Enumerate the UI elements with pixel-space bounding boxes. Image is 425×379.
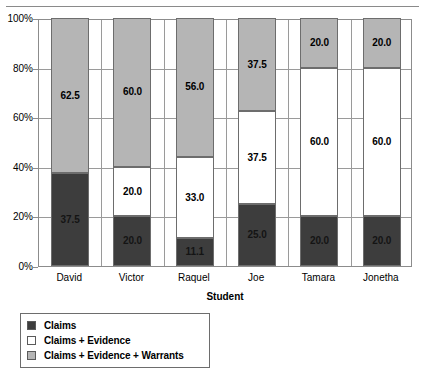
legend-item-label: Claims + Evidence [44, 335, 130, 346]
bar-column: 25.037.537.5 [226, 20, 288, 266]
legend-item[interactable]: Claims + Evidence [27, 333, 204, 348]
x-axis-tick-label: Joe [225, 272, 287, 283]
bar-segment[interactable]: 11.1 [176, 238, 214, 266]
y-axis-tick-label: 80% [0, 64, 33, 74]
bar-segment-value-label: 20.0 [372, 38, 391, 48]
y-axis-tick-label: 60% [0, 113, 33, 123]
y-axis-tick-label: 40% [0, 163, 33, 173]
bar-segment-value-label: 37.5 [61, 215, 80, 225]
y-axis-tick-mark [33, 267, 38, 268]
legend-item[interactable]: Claims + Evidence + Warrants [27, 348, 204, 363]
bar-segment-value-label: 20.0 [372, 236, 391, 246]
plot-area: 37.562.520.020.060.011.133.056.025.037.5… [38, 19, 412, 267]
x-axis-tick-label: David [38, 272, 100, 283]
legend-item[interactable]: Claims [27, 318, 204, 333]
y-axis-tick-label: 20% [0, 212, 33, 222]
legend-item-label: Claims + Evidence + Warrants [44, 350, 184, 361]
bar-segment[interactable]: 62.5 [51, 18, 89, 173]
bar-segment-value-label: 37.5 [248, 60, 267, 70]
stacked-bar[interactable]: 20.060.020.0 [300, 20, 338, 266]
bar-segment[interactable]: 33.0 [176, 157, 214, 239]
legend-swatch-icon [27, 351, 36, 360]
bar-segment-value-label: 60.0 [310, 137, 329, 147]
chart-page: 100%80%60%40%20%0% 37.562.520.020.060.01… [0, 0, 425, 379]
bar-column: 37.562.5 [39, 20, 101, 266]
bar-segment[interactable]: 37.5 [238, 111, 276, 204]
bar-segment[interactable]: 20.0 [300, 18, 338, 68]
bar-segment-value-label: 60.0 [372, 137, 391, 147]
y-axis-tick-label: 100% [0, 14, 33, 24]
bar-segment-value-label: 33.0 [185, 193, 204, 203]
bar-segment[interactable]: 60.0 [363, 68, 401, 217]
bar-segment[interactable]: 56.0 [176, 18, 214, 157]
bar-segment-value-label: 20.0 [123, 187, 142, 197]
stacked-bar[interactable]: 37.562.5 [51, 20, 89, 266]
bar-segment[interactable]: 37.5 [51, 173, 89, 266]
bar-segment-value-label: 37.5 [248, 153, 267, 163]
bar-segment[interactable]: 37.5 [238, 18, 276, 111]
bar-segment[interactable]: 20.0 [113, 216, 151, 266]
bar-segment[interactable]: 60.0 [113, 18, 151, 167]
x-axis-tick-label: Raquel [163, 272, 225, 283]
bar-segment[interactable]: 60.0 [300, 68, 338, 217]
bar-segment-value-label: 62.5 [61, 91, 80, 101]
stacked-bar[interactable]: 20.060.020.0 [363, 20, 401, 266]
x-axis-title: Student [38, 291, 412, 302]
stacked-bar[interactable]: 11.133.056.0 [176, 20, 214, 266]
bar-segment[interactable]: 20.0 [363, 216, 401, 266]
bar-segment[interactable]: 20.0 [363, 18, 401, 68]
legend-item-label: Claims [44, 320, 76, 331]
x-axis-tick-label: Victor [100, 272, 162, 283]
stacked-bar[interactable]: 20.020.060.0 [113, 20, 151, 266]
bar-segment-value-label: 20.0 [310, 236, 329, 246]
bar-segment-value-label: 25.0 [248, 230, 267, 240]
bar-column: 20.060.020.0 [288, 20, 350, 266]
stacked-bar[interactable]: 25.037.537.5 [238, 20, 276, 266]
top-horizontal-rule [6, 6, 419, 7]
bar-segment[interactable]: 20.0 [113, 167, 151, 217]
legend-swatch-icon [27, 321, 36, 330]
x-axis-tick-label: Jonetha [350, 272, 412, 283]
bar-segment-value-label: 20.0 [123, 236, 142, 246]
bar-column: 20.020.060.0 [101, 20, 163, 266]
x-axis-tick-label: Tamara [287, 272, 349, 283]
y-axis-tick-label: 0% [0, 262, 33, 272]
legend-swatch-icon [27, 336, 36, 345]
bar-segment[interactable]: 25.0 [238, 204, 276, 266]
bar-column: 11.133.056.0 [164, 20, 226, 266]
bar-column: 20.060.020.0 [351, 20, 413, 266]
bar-segment[interactable]: 20.0 [300, 216, 338, 266]
bar-segment-value-label: 60.0 [123, 87, 142, 97]
bar-segment-value-label: 20.0 [310, 38, 329, 48]
bar-segment-value-label: 11.1 [186, 247, 205, 257]
bar-segment-value-label: 56.0 [185, 82, 204, 92]
legend: ClaimsClaims + EvidenceClaims + Evidence… [20, 313, 210, 368]
